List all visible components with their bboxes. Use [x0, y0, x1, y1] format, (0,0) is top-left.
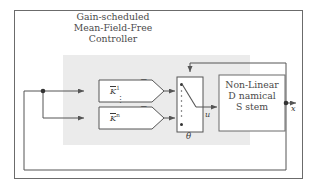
minus-sign-top: −: [140, 74, 148, 85]
block-diagram-canvas: Gain-scheduled Mean-Field-Free Controlle…: [0, 0, 317, 192]
gain-block-n-shape: [99, 107, 164, 129]
plant-block-label: Non-Linear D namical S stem: [219, 80, 285, 113]
plant-line-3: S stem: [219, 102, 285, 113]
gain-block-n-label: Kn: [110, 112, 120, 123]
minus-sign-bottom: −: [140, 101, 148, 112]
switch-contact-dot-n: [180, 123, 183, 126]
feedback-junction-dot: [41, 89, 46, 94]
gain-1-superscript: 1: [116, 85, 120, 91]
gain-n-superscript: n: [116, 112, 120, 118]
gain-block-1-shape: [99, 80, 164, 102]
gain-blocks-ellipsis: ⋮: [116, 95, 125, 106]
scheduling-parameter-label: θ: [186, 131, 191, 141]
title-line-3: Controller: [53, 34, 173, 45]
control-signal-label: u: [205, 110, 210, 119]
state-signal-label: x: [291, 104, 296, 113]
diagram-title: Gain-scheduled Mean-Field-Free Controlle…: [53, 12, 173, 45]
